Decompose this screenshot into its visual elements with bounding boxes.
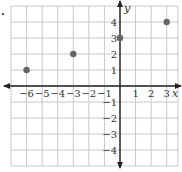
stray-mark bbox=[2, 13, 4, 15]
x-tick-label: 3 bbox=[164, 88, 170, 99]
x-tick-label: 2 bbox=[148, 88, 154, 99]
x-tick-label: −6 bbox=[19, 88, 34, 99]
x-tick-label: −3 bbox=[66, 88, 81, 99]
y-tick-label: 2 bbox=[111, 49, 117, 60]
data-points bbox=[23, 19, 170, 73]
y-axis-label: y bbox=[123, 2, 131, 15]
y-tick-label: 3 bbox=[111, 33, 117, 44]
coordinate-plane: −6−5−4−3−2−11234321−1−2−3−4 x y bbox=[0, 0, 182, 172]
data-point bbox=[117, 35, 123, 41]
x-axis-label: x bbox=[172, 87, 179, 100]
y-tick-label: 4 bbox=[111, 17, 117, 28]
data-point bbox=[164, 19, 170, 25]
x-tick-label: −5 bbox=[35, 88, 50, 99]
y-tick-label: −1 bbox=[102, 97, 117, 108]
x-tick-label: −2 bbox=[81, 88, 96, 99]
y-tick-label: −4 bbox=[102, 145, 117, 156]
data-point bbox=[70, 51, 76, 57]
y-tick-label: 1 bbox=[111, 65, 117, 76]
x-axis-left-arrow-icon bbox=[3, 83, 10, 89]
y-tick-label: −3 bbox=[102, 129, 117, 140]
data-point bbox=[23, 67, 29, 73]
axes bbox=[3, 0, 182, 169]
x-tick-label: −4 bbox=[50, 88, 65, 99]
y-axis-up-arrow-icon bbox=[117, 0, 123, 7]
x-tick-label: 1 bbox=[132, 88, 138, 99]
y-tick-label: −2 bbox=[102, 113, 117, 124]
